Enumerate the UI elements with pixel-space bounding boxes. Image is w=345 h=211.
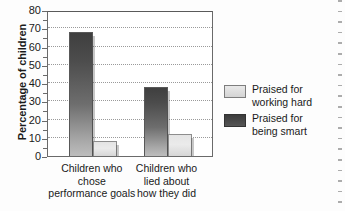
- y-axis-tick-label: 70: [1, 23, 41, 34]
- gridline: [48, 27, 212, 28]
- legend-item-being-smart: Praised for being smart: [224, 112, 312, 137]
- bar-working-hard-group1: [93, 141, 117, 156]
- x-axis-label-group2: Children wholied abouthow they did: [107, 162, 227, 200]
- y-axis-tick-label: 80: [1, 5, 41, 16]
- legend-label-line1: Praised for: [252, 112, 303, 124]
- bar-shadow: [191, 138, 194, 156]
- x-axis-label-line: how they did: [107, 187, 227, 200]
- y-axis-tick-label: 60: [1, 42, 41, 53]
- legend-label-line1: Praised for: [252, 83, 303, 95]
- legend-label-line2: being smart: [252, 125, 307, 137]
- bar-working-hard-group2: [168, 134, 192, 156]
- legend: Praised for working hard Praised for bei…: [224, 83, 312, 141]
- y-axis-tick-label: 0: [1, 151, 41, 162]
- legend-item-working-hard: Praised for working hard: [224, 83, 312, 108]
- y-axis-tick-label: 40: [1, 78, 41, 89]
- y-axis-tick-label: 10: [1, 133, 41, 144]
- bar-being-smart-group2: [144, 87, 168, 156]
- y-axis-tick-label: 50: [1, 60, 41, 71]
- legend-label-line2: working hard: [252, 96, 312, 108]
- page-scan-artifact: [337, 0, 345, 211]
- legend-swatch-light-icon: [224, 85, 246, 98]
- y-axis-tick-label: 30: [1, 96, 41, 107]
- bar-being-smart-group1: [69, 32, 93, 156]
- chart-figure: Percentage of children 01020304050607080…: [0, 0, 345, 211]
- x-axis-label-line: lied about: [107, 175, 227, 188]
- bar-shadow: [92, 36, 95, 156]
- bar-shadow: [116, 145, 119, 156]
- y-axis-tick-label: 20: [1, 115, 41, 126]
- legend-label-being-smart: Praised for being smart: [252, 112, 307, 137]
- x-axis-label-line: Children who: [107, 162, 227, 175]
- legend-swatch-dark-icon: [224, 114, 246, 127]
- plot-area: [47, 11, 213, 157]
- y-axis-tick-mark: [42, 157, 47, 158]
- legend-label-working-hard: Praised for working hard: [252, 83, 312, 108]
